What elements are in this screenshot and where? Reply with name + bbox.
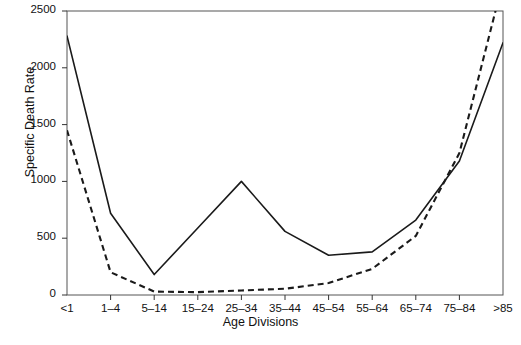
series-line-dashed bbox=[67, 0, 503, 292]
x-tick-label: 55–64 bbox=[356, 302, 388, 314]
x-tick-label: 35–44 bbox=[269, 302, 301, 314]
plot-frame bbox=[67, 11, 503, 295]
y-tick-label: 500 bbox=[0, 230, 56, 242]
series-line-solid bbox=[67, 36, 503, 275]
y-tick-label: 2000 bbox=[0, 60, 56, 72]
x-tick-marks bbox=[111, 295, 460, 300]
y-tick-marks bbox=[62, 11, 67, 295]
x-tick-label: 45–54 bbox=[313, 302, 345, 314]
x-tick-label: 15–24 bbox=[182, 302, 214, 314]
x-tick-label: >85 bbox=[493, 302, 513, 314]
x-tick-label: 1–4 bbox=[101, 302, 120, 314]
x-tick-label: 65–74 bbox=[400, 302, 432, 314]
x-tick-label: 5–14 bbox=[141, 302, 167, 314]
y-tick-label: 2500 bbox=[0, 3, 56, 15]
x-tick-label: 25–34 bbox=[225, 302, 257, 314]
chart-figure: Specific Death Rate Age Divisions 050010… bbox=[0, 0, 521, 345]
x-tick-label: 75–84 bbox=[443, 302, 475, 314]
y-tick-label: 1500 bbox=[0, 117, 56, 129]
y-tick-label: 0 bbox=[0, 287, 56, 299]
series-group bbox=[67, 0, 503, 292]
y-tick-label: 1000 bbox=[0, 173, 56, 185]
plot-area bbox=[0, 0, 521, 345]
x-tick-label: <1 bbox=[60, 302, 73, 314]
